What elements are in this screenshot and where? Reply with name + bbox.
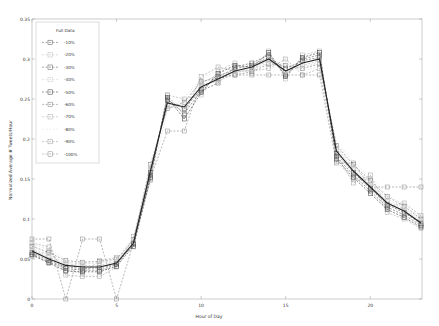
y-tick-label: 0.25 [20, 97, 30, 102]
legend: Full Data-10%-20%-30%-40%-50%-60%-70%-80… [36, 22, 99, 163]
legend-item: Full Data [56, 28, 75, 33]
legend-label: -100% [64, 152, 78, 157]
x-tick-label: 20 [367, 303, 373, 308]
legend-label: -10% [64, 40, 75, 45]
legend-label: -90% [64, 139, 75, 144]
y-tick-label: 0.35 [20, 17, 30, 22]
y-tick-label: 0.05 [20, 257, 30, 262]
x-tick-label: 0 [31, 303, 34, 308]
legend-label: -40% [64, 77, 75, 82]
x-tick-label: 10 [198, 303, 204, 308]
line-chart: 00.050.10.150.20.250.30.35 05101520 Hour… [0, 0, 439, 326]
y-tick-label: 0 [27, 297, 30, 302]
y-tick-label: 0.2 [23, 137, 30, 142]
legend-label: -20% [64, 52, 75, 57]
legend-label: -70% [64, 114, 75, 119]
legend-label: -80% [64, 127, 75, 132]
x-axis-label: Hour of Day [196, 314, 223, 319]
x-tick-label: 15 [283, 303, 289, 308]
y-tick-label: 0.1 [23, 217, 30, 222]
legend-label: Full Data [56, 28, 75, 33]
legend-label: -30% [64, 65, 75, 70]
x-tick-label: 5 [115, 303, 118, 308]
y-tick-label: 0.15 [20, 177, 30, 182]
y-axis-label: Normalized Average # Tweets/Hour [8, 120, 13, 200]
y-tick-label: 0.3 [23, 57, 30, 62]
legend-label: -50% [64, 90, 75, 95]
legend-label: -60% [64, 102, 75, 107]
